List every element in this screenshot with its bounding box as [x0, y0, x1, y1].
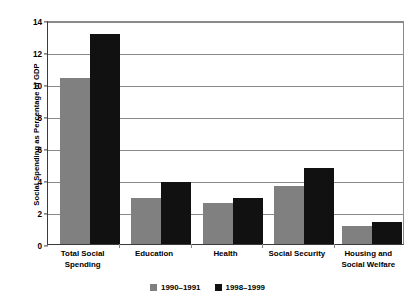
x-axis-label-line: Social Welfare [333, 260, 404, 271]
x-axis-label: Health [190, 249, 261, 260]
y-tick-label: 2 [20, 210, 48, 219]
bar-group [60, 22, 120, 244]
legend-item[interactable]: 1990–1991 [150, 283, 201, 292]
bar [131, 198, 161, 244]
bar [372, 222, 402, 244]
x-axis-label-line: Total Social Spending [47, 249, 118, 270]
legend-label: 1990–1991 [161, 283, 201, 292]
bar-group [203, 22, 263, 244]
bar-group [342, 22, 402, 244]
x-tick-mark [334, 244, 335, 248]
x-axis-label: Social Security [261, 249, 332, 260]
plot-area: 02468101214 [47, 21, 404, 245]
x-tick-mark [119, 244, 120, 248]
y-tick-label: 0 [20, 242, 48, 251]
x-tick-mark [262, 244, 263, 248]
bar-group [131, 22, 191, 244]
x-axis-label-line: Housing and [333, 249, 404, 260]
y-tick-label: 8 [20, 114, 48, 123]
bar [304, 168, 334, 244]
y-tick-label: 6 [20, 146, 48, 155]
x-axis-labels: Total Social SpendingEducationHealthSoci… [47, 249, 404, 279]
bar [203, 203, 233, 244]
bar [342, 226, 372, 244]
x-axis-label: Total Social Spending [47, 249, 118, 270]
bar [90, 34, 120, 244]
bar [274, 186, 304, 244]
legend-swatch [150, 284, 157, 291]
x-axis-label-line: Social Security [261, 249, 332, 260]
x-axis-label: Housing andSocial Welfare [333, 249, 404, 270]
y-tick-label: 12 [20, 50, 48, 59]
y-tick-label: 14 [20, 18, 48, 27]
bar [233, 198, 263, 244]
legend-item[interactable]: 1998–1999 [215, 283, 266, 292]
y-tick-label: 10 [20, 82, 48, 91]
y-tick-label: 4 [20, 178, 48, 187]
bar-group [274, 22, 334, 244]
bar [60, 78, 90, 244]
bar-chart-figure: Social Spending as Percentage of GDP 024… [0, 0, 415, 301]
cropped-header-remnant [0, 0, 415, 6]
x-axis-label-line: Education [118, 249, 189, 260]
legend-swatch [215, 284, 222, 291]
legend-label: 1998–1999 [226, 283, 266, 292]
x-axis-label-line: Health [190, 249, 261, 260]
x-tick-mark [191, 244, 192, 248]
bar [161, 182, 191, 244]
chart-legend: 1990–19911998–1999 [0, 283, 415, 292]
x-axis-label: Education [118, 249, 189, 260]
